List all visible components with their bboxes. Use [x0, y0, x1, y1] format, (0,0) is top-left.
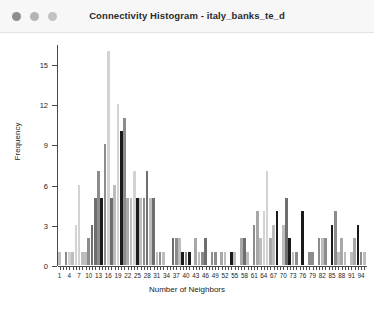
x-axis-tick — [335, 267, 336, 270]
x-axis-tick — [89, 267, 90, 270]
x-axis-tick — [313, 267, 314, 270]
x-axis-tick — [342, 267, 343, 270]
x-axis-tick-label: 55 — [231, 272, 238, 279]
x-axis-tick — [150, 267, 151, 270]
histogram-bar — [344, 252, 347, 265]
histogram-bar — [152, 198, 155, 265]
x-axis-tick — [361, 267, 362, 270]
x-axis-tick — [141, 267, 142, 270]
x-axis-tick — [111, 267, 112, 270]
x-axis-tick — [345, 267, 346, 270]
x-axis-tick-label: 28 — [144, 272, 151, 279]
plot-area — [58, 45, 366, 265]
x-axis-tick — [167, 267, 168, 270]
x-axis-tick-label: 46 — [202, 272, 209, 279]
histogram-bar — [107, 51, 110, 265]
x-axis-tick — [209, 267, 210, 270]
x-axis-tick-label: 52 — [221, 272, 228, 279]
x-axis-tick — [69, 267, 70, 270]
x-axis-tick — [355, 267, 356, 270]
x-axis-tick-label: 64 — [260, 272, 267, 279]
x-axis-tick — [270, 267, 271, 270]
x-axis-tick-label: 94 — [358, 272, 365, 279]
x-axis-tick — [76, 267, 77, 270]
histogram-bar — [334, 211, 337, 265]
x-axis-tick — [73, 267, 74, 270]
histogram-bar — [340, 238, 343, 265]
x-axis-tick — [251, 267, 252, 270]
histogram-bar — [230, 252, 233, 265]
y-axis-tick — [52, 266, 57, 267]
histogram-bar — [58, 252, 61, 265]
x-axis-tick — [264, 267, 265, 270]
histogram-bar — [360, 252, 363, 265]
x-axis-tick — [199, 267, 200, 270]
histogram-bar — [353, 238, 356, 265]
histogram-bar — [198, 252, 201, 265]
x-axis-tick — [196, 267, 197, 270]
y-axis-tick — [52, 105, 57, 106]
histogram-bar — [295, 252, 298, 265]
x-axis-tick-label: 31 — [153, 272, 160, 279]
histogram-bar — [156, 252, 159, 265]
x-axis-tick-label: 19 — [114, 272, 121, 279]
x-axis-tick — [348, 267, 349, 270]
x-axis-tick — [322, 267, 323, 270]
histogram-chart: 03691215 Frequency 147101316192225283134… — [0, 33, 374, 312]
x-axis-tick — [115, 267, 116, 270]
x-axis-tick-label: 85 — [328, 272, 335, 279]
x-axis-tick — [280, 267, 281, 270]
x-axis-tick — [131, 267, 132, 270]
y-axis-tick-label: 15 — [8, 61, 48, 70]
x-axis-tick — [105, 267, 106, 270]
x-axis-tick — [290, 267, 291, 270]
x-axis-tick — [134, 267, 135, 270]
x-axis-tick — [244, 267, 245, 270]
x-axis-tick — [338, 267, 339, 270]
x-axis-tick — [303, 267, 304, 270]
histogram-bar — [123, 118, 126, 265]
x-axis-tick — [332, 267, 333, 270]
x-axis-tick — [173, 267, 174, 270]
x-axis-tick — [238, 267, 239, 270]
histogram-bar — [175, 238, 178, 265]
x-axis-tick — [325, 267, 326, 270]
x-axis-tick-label: 40 — [183, 272, 190, 279]
x-axis-tick — [316, 267, 317, 270]
histogram-bar — [97, 171, 100, 265]
x-axis-tick — [300, 267, 301, 270]
x-axis-tick — [218, 267, 219, 270]
x-axis-tick — [180, 267, 181, 270]
x-axis-tick — [66, 267, 67, 270]
x-axis-tick-label: 49 — [212, 272, 219, 279]
x-axis-tick — [228, 267, 229, 270]
histogram-bar — [233, 252, 236, 265]
x-axis-tick-label: 88 — [338, 272, 345, 279]
x-axis-tick-label: 16 — [105, 272, 112, 279]
x-axis-tick — [189, 267, 190, 270]
window-title: Connectivity Histogram - italy_banks_te_… — [0, 10, 374, 21]
histogram-bar — [211, 252, 214, 265]
histogram-bar — [214, 252, 217, 265]
x-axis-tick-label: 91 — [348, 272, 355, 279]
y-axis-title: Frequency — [13, 87, 22, 197]
x-axis-tick — [118, 267, 119, 270]
histogram-bar — [308, 252, 311, 265]
histogram-bar — [288, 238, 291, 265]
histogram-bar — [324, 238, 327, 265]
x-axis-tick — [235, 267, 236, 270]
x-axis-tick — [254, 267, 255, 270]
histogram-bar — [143, 198, 146, 265]
histogram-bar — [201, 252, 204, 265]
x-axis-tick — [160, 267, 161, 270]
histogram-bar — [204, 238, 207, 265]
histogram-bar — [65, 252, 68, 265]
histogram-bar — [71, 252, 74, 265]
x-axis-tick-label: 4 — [68, 272, 72, 279]
histogram-bar — [256, 211, 259, 265]
x-axis-tick — [267, 267, 268, 270]
x-axis-tick — [99, 267, 100, 270]
histogram-bar — [243, 238, 246, 265]
x-axis-tick — [147, 267, 148, 270]
x-axis-tick-label: 34 — [163, 272, 170, 279]
